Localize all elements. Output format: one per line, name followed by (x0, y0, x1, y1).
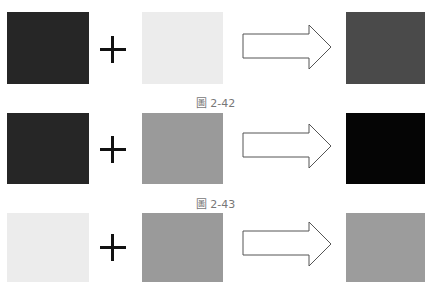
row3-left-swatch (7, 213, 89, 282)
plus-icon (100, 136, 126, 163)
plus-icon (100, 36, 126, 63)
row2-left-swatch (7, 113, 89, 184)
figure-caption: 圖 2-43 (0, 195, 431, 211)
row3-middle-swatch (142, 213, 223, 282)
row1-middle-swatch (142, 12, 223, 84)
row2-result-swatch (346, 113, 425, 184)
row1-result-swatch (346, 12, 425, 84)
arrow-right-icon (241, 122, 333, 170)
row2-middle-swatch (142, 113, 223, 184)
arrow-right-icon (241, 220, 333, 268)
plus-icon (100, 234, 126, 261)
row3-result-swatch (346, 213, 425, 282)
arrow-right-icon (241, 23, 333, 71)
figure-caption: 圖 2-42 (0, 94, 431, 110)
row1-left-swatch (7, 12, 89, 84)
